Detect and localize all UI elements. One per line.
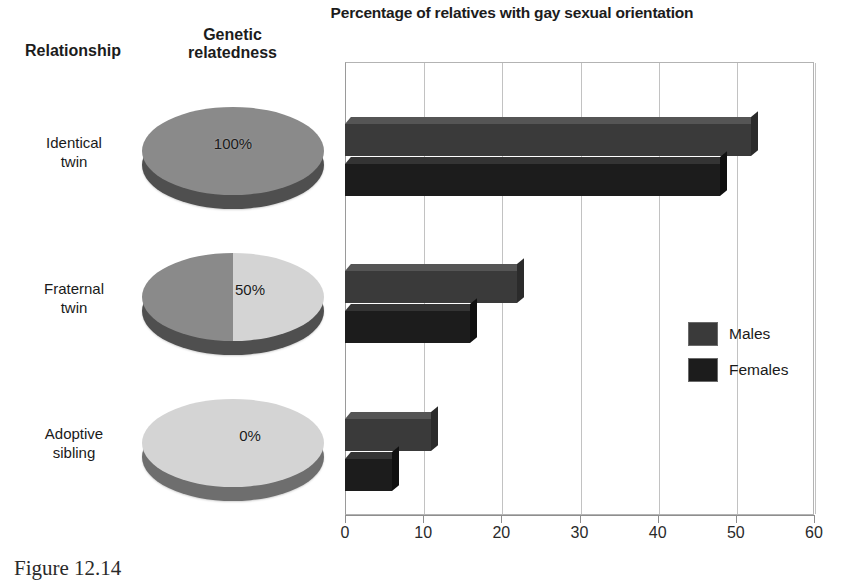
column-header-genetic-relatedness: Genetic relatedness (150, 26, 315, 63)
bar-end-face (720, 151, 727, 196)
column-header-relationship: Relationship (8, 42, 138, 60)
x-axis-tick (501, 515, 502, 523)
legend-swatch-males-icon (688, 322, 718, 346)
column-header-genetic-line1: Genetic (150, 26, 315, 44)
row-label-line1: Fraternal (8, 280, 140, 299)
pie-chart-identical-twin: 100% (142, 107, 324, 213)
bar-top-face (345, 452, 398, 459)
bar-males-fraternal-twin (345, 271, 517, 303)
bar-end-face (431, 406, 438, 451)
x-axis-tick (423, 515, 424, 523)
bar-top-face (345, 304, 476, 311)
x-axis-tick-label: 60 (792, 524, 836, 542)
bar-front-face (345, 311, 470, 343)
row-label-line2: sibling (8, 444, 140, 463)
bar-front-face (345, 271, 517, 303)
bar-males-identical-twin (345, 124, 751, 156)
pie-percent-label: 50% (142, 281, 324, 298)
x-axis-tick-label: 0 (323, 524, 367, 542)
row-label-line2: twin (8, 299, 140, 318)
pie-chart-adoptive-sibling: 0% (142, 399, 324, 505)
pie-percent-label: 0% (142, 427, 324, 444)
bar-top-face (345, 264, 523, 271)
bar-top-face (345, 157, 726, 164)
legend-item-males[interactable]: Males (688, 322, 818, 346)
bar-top-face (345, 117, 757, 124)
x-axis-tick (736, 515, 737, 523)
legend-swatch-females-icon (688, 358, 718, 382)
x-axis-tick-label: 50 (714, 524, 758, 542)
row-label-identical-twin: Identical twin (8, 134, 140, 172)
bar-end-face (751, 111, 758, 156)
legend: Males Females (688, 322, 818, 394)
bar-females-adoptive-sibling (345, 459, 392, 491)
legend-item-females[interactable]: Females (688, 358, 818, 382)
bar-end-face (392, 446, 399, 491)
bar-females-identical-twin (345, 164, 720, 196)
row-label-fraternal-twin: Fraternal twin (8, 280, 140, 318)
x-axis-tick (580, 515, 581, 523)
row-label-line1: Adoptive (8, 425, 140, 444)
bar-front-face (345, 459, 392, 491)
row-label-line1: Identical (8, 134, 140, 153)
bar-end-face (517, 258, 524, 303)
bar-males-adoptive-sibling (345, 419, 431, 451)
gridline (815, 63, 816, 514)
bar-top-face (345, 412, 437, 419)
x-axis-tick (814, 515, 815, 523)
bar-females-fraternal-twin (345, 311, 470, 343)
x-axis-tick (658, 515, 659, 523)
bar-front-face (345, 124, 751, 156)
pie-percent-label: 100% (142, 135, 324, 152)
bar-front-face (345, 164, 720, 196)
x-axis-tick-label: 20 (479, 524, 523, 542)
row-label-adoptive-sibling: Adoptive sibling (8, 425, 140, 463)
figure-caption: Figure 12.14 (14, 556, 121, 581)
pie-chart-fraternal-twin: 50% (142, 253, 324, 359)
legend-label-females: Females (729, 361, 788, 379)
chart-title: Percentage of relatives with gay sexual … (232, 4, 792, 22)
x-axis-tick-label: 30 (558, 524, 602, 542)
legend-label-males: Males (729, 325, 770, 343)
x-axis-tick-label: 40 (636, 524, 680, 542)
bar-end-face (470, 298, 477, 343)
x-axis-tick (345, 515, 346, 523)
column-header-genetic-line2: relatedness (150, 44, 315, 62)
bar-front-face (345, 419, 431, 451)
row-label-line2: twin (8, 153, 140, 172)
x-axis-tick-label: 10 (401, 524, 445, 542)
